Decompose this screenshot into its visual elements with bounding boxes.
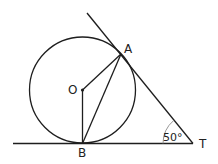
angle-label-50: 50° [163,131,183,144]
center-point-o [81,88,84,91]
label-o: O [68,83,77,97]
label-a: A [124,42,133,56]
label-t: T [198,137,207,151]
geometry-diagram: A O B T 50° [0,0,218,164]
radius-oa [83,54,122,90]
label-b: B [78,146,86,160]
chord-ab [83,54,122,144]
tangent-line-at [87,13,193,144]
